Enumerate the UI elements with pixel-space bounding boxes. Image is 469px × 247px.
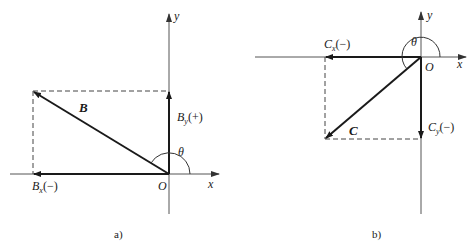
- bx-component-label: Bx(−): [32, 179, 58, 195]
- origin-label: O: [425, 60, 434, 74]
- svg-text:Bx(−): Bx(−): [32, 179, 58, 195]
- x-axis-label: x: [207, 177, 214, 191]
- theta-label: θ: [178, 145, 184, 159]
- vector-b-arrow: [34, 92, 169, 174]
- theta-label: θ: [411, 35, 417, 49]
- panel-b: y x O C θ Cx(−) Cy(−) b): [255, 8, 466, 241]
- vector-components-diagram: y x O B θ By(+) Bx(−) a) y x O C θ: [0, 0, 469, 247]
- cy-component-label: Cy(−): [428, 120, 454, 136]
- panel-b-caption: b): [372, 228, 382, 241]
- svg-text:Cy(−): Cy(−): [428, 120, 454, 136]
- y-axis-label: y: [426, 8, 433, 22]
- panel-a: y x O B θ By(+) Bx(−) a): [10, 9, 219, 241]
- cx-component-label: Cx(−): [324, 37, 350, 53]
- origin-label: O: [158, 179, 167, 193]
- vector-c-label: C: [349, 123, 358, 138]
- by-component-label: By(+): [177, 110, 203, 126]
- x-axis-label: x: [456, 57, 463, 71]
- svg-text:Cx(−): Cx(−): [324, 37, 350, 53]
- y-axis-label: y: [173, 9, 180, 23]
- svg-text:By(+): By(+): [177, 110, 203, 126]
- panel-a-caption: a): [114, 228, 123, 241]
- theta-arc: [151, 153, 190, 174]
- vector-b-label: B: [78, 100, 88, 115]
